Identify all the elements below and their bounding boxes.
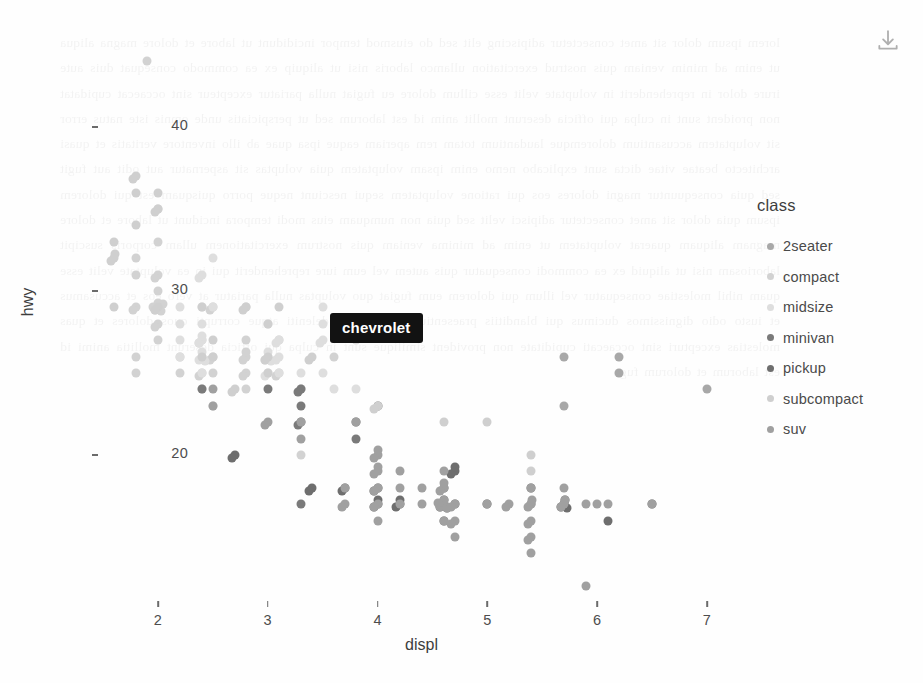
scatter-point[interactable] — [241, 385, 250, 394]
scatter-point[interactable] — [274, 369, 283, 378]
scatter-point[interactable] — [417, 500, 426, 509]
scatter-point[interactable] — [304, 486, 313, 495]
scatter-point[interactable] — [227, 453, 236, 462]
legend-item-subcompact[interactable]: subcompact — [757, 384, 917, 415]
scatter-point[interactable] — [447, 503, 456, 512]
legend-item-pickup[interactable]: pickup — [757, 353, 917, 384]
scatter-point[interactable] — [527, 467, 536, 476]
scatter-point[interactable] — [128, 306, 137, 315]
scatter-point[interactable] — [370, 404, 379, 413]
scatter-point[interactable] — [527, 549, 536, 558]
scatter-point[interactable] — [604, 500, 613, 509]
scatter-point[interactable] — [208, 254, 217, 263]
scatter-point[interactable] — [242, 347, 251, 356]
scatter-point[interactable] — [274, 303, 283, 312]
scatter-point[interactable] — [132, 369, 141, 378]
scatter-point[interactable] — [263, 385, 272, 394]
scatter-point[interactable] — [150, 306, 159, 315]
scatter-point[interactable] — [293, 388, 302, 397]
scatter-point[interactable] — [329, 352, 338, 361]
scatter-point[interactable] — [208, 369, 217, 378]
scatter-point[interactable] — [241, 336, 250, 345]
scatter-point[interactable] — [208, 352, 217, 361]
scatter-point[interactable] — [194, 273, 203, 282]
scatter-point[interactable] — [450, 462, 459, 471]
scatter-point[interactable] — [197, 385, 206, 394]
scatter-point[interactable] — [648, 500, 657, 509]
scatter-point[interactable] — [150, 207, 159, 216]
legend-item-2seater[interactable]: 2seater — [757, 231, 917, 262]
scatter-point[interactable] — [560, 352, 569, 361]
scatter-point[interactable] — [143, 57, 152, 66]
scatter-point[interactable] — [296, 500, 305, 509]
scatter-point[interactable] — [110, 303, 119, 312]
scatter-point[interactable] — [260, 421, 269, 430]
legend-item-compact[interactable]: compact — [757, 262, 917, 293]
scatter-point[interactable] — [154, 188, 163, 197]
legend-item-midsize[interactable]: midsize — [757, 292, 917, 323]
scatter-point[interactable] — [198, 331, 207, 340]
scatter-point[interactable] — [176, 369, 185, 378]
scatter-point[interactable] — [374, 446, 383, 455]
scatter-point[interactable] — [527, 495, 536, 504]
scatter-point[interactable] — [176, 319, 185, 328]
scatter-point[interactable] — [439, 418, 448, 427]
scatter-point[interactable] — [150, 273, 159, 282]
scatter-point[interactable] — [703, 385, 712, 394]
scatter-point[interactable] — [502, 503, 511, 512]
scatter-point[interactable] — [329, 385, 338, 394]
scatter-point[interactable] — [337, 503, 346, 512]
scatter-point[interactable] — [373, 516, 382, 525]
legend-item-minivan[interactable]: minivan — [757, 323, 917, 354]
scatter-point[interactable] — [238, 306, 247, 315]
scatter-point[interactable] — [450, 533, 459, 542]
scatter-point[interactable] — [238, 371, 247, 380]
scatter-point[interactable] — [560, 483, 569, 492]
scatter-point[interactable] — [154, 237, 163, 246]
scatter-point[interactable] — [395, 500, 404, 509]
scatter-point[interactable] — [197, 319, 206, 328]
scatter-point[interactable] — [227, 388, 236, 397]
scatter-point[interactable] — [176, 352, 185, 361]
scatter-point[interactable] — [434, 499, 443, 508]
scatter-point[interactable] — [582, 582, 591, 591]
scatter-point[interactable] — [351, 385, 360, 394]
scatter-point[interactable] — [439, 479, 448, 488]
scatter-point[interactable] — [132, 221, 141, 230]
scatter-point[interactable] — [208, 401, 217, 410]
scatter-point[interactable] — [560, 401, 569, 410]
scatter-point[interactable] — [304, 355, 313, 364]
scatter-point[interactable] — [582, 500, 591, 509]
scatter-point[interactable] — [318, 319, 327, 328]
scatter-point[interactable] — [154, 287, 163, 296]
scatter-point[interactable] — [208, 336, 217, 345]
scatter-point[interactable] — [417, 483, 426, 492]
scatter-point[interactable] — [197, 352, 206, 361]
scatter-point[interactable] — [296, 369, 305, 378]
scatter-point[interactable] — [296, 418, 305, 427]
scatter-point[interactable] — [351, 418, 360, 427]
scatter-point[interactable] — [197, 303, 206, 312]
scatter-point[interactable] — [110, 249, 119, 258]
scatter-point[interactable] — [132, 270, 141, 279]
scatter-point[interactable] — [132, 352, 141, 361]
scatter-point[interactable] — [271, 339, 280, 348]
scatter-point[interactable] — [524, 519, 533, 528]
scatter-point[interactable] — [439, 467, 448, 476]
scatter-point[interactable] — [197, 369, 206, 378]
scatter-point[interactable] — [524, 535, 533, 544]
scatter-point[interactable] — [132, 188, 141, 197]
scatter-point[interactable] — [263, 369, 272, 378]
scatter-point[interactable] — [260, 355, 269, 364]
scatter-point[interactable] — [447, 519, 456, 528]
scatter-point[interactable] — [128, 175, 137, 184]
scatter-point[interactable] — [318, 303, 327, 312]
scatter-point[interactable] — [176, 303, 185, 312]
scatter-point[interactable] — [296, 434, 305, 443]
scatter-point[interactable] — [395, 467, 404, 476]
scatter-point[interactable] — [483, 500, 492, 509]
scatter-point[interactable] — [296, 401, 305, 410]
scatter-point[interactable] — [296, 451, 305, 460]
scatter-point[interactable] — [370, 486, 379, 495]
scatter-point[interactable] — [527, 483, 536, 492]
